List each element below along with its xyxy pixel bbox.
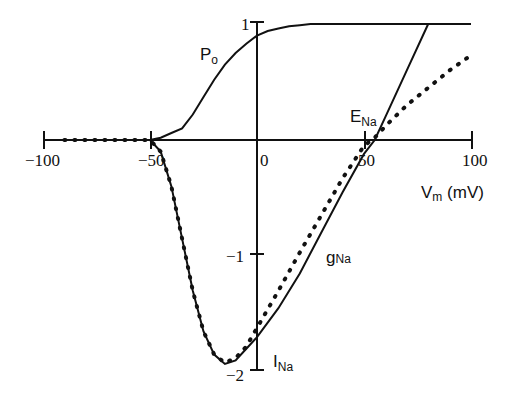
xtick-minus100: −100	[25, 151, 60, 170]
x-axis-label: Vm (mV)	[421, 183, 484, 204]
ina-label: INa	[273, 352, 293, 374]
ina-curve	[64, 55, 471, 362]
ytick-minus1: −1	[226, 247, 244, 266]
xtick-50: 50	[358, 151, 375, 170]
gna-label: gNa	[326, 248, 351, 267]
po-label: Po	[200, 45, 218, 67]
xtick-minus50: −50	[138, 151, 165, 170]
gna-curve	[43, 24, 428, 364]
ytick-minus2: −2	[226, 366, 244, 385]
y-axis	[250, 22, 264, 370]
ytick-1: 1	[241, 15, 250, 34]
ena-label: ENa	[350, 107, 377, 129]
xtick-100: 100	[462, 151, 488, 170]
chart: −100 −50 0 50 100 1 −1 −2 Po ENa gNa INa…	[0, 0, 516, 397]
xtick-0: 0	[260, 151, 269, 170]
